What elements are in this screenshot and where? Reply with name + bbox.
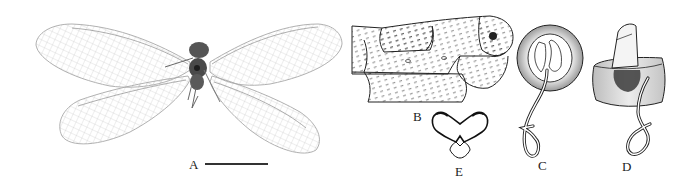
panel-c-spermatheca <box>505 20 590 165</box>
panel-b-abdomen-lateral <box>350 10 520 105</box>
spermatheca-ring-drawing <box>505 20 590 165</box>
spermatheca-oblique-drawing <box>588 20 673 165</box>
panel-d-spermatheca-oblique <box>588 20 673 165</box>
panel-label-a: A <box>189 158 198 171</box>
panel-label-b: B <box>413 110 422 123</box>
figure: A B <box>0 0 689 184</box>
panel-e-subgenitale <box>430 108 490 163</box>
panel-label-c: C <box>538 159 547 172</box>
subgenitale-drawing <box>430 108 490 163</box>
lacewing-habitus-image <box>0 0 350 184</box>
panel-a-habitus: A <box>0 0 350 184</box>
scale-bar <box>205 163 268 165</box>
panel-label-d: D <box>622 160 631 173</box>
abdomen-lateral-drawing <box>350 10 520 105</box>
panel-label-e: E <box>455 165 463 178</box>
